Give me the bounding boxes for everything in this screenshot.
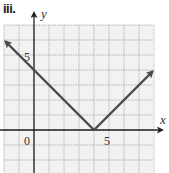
origin-label: 0	[24, 134, 30, 148]
x-tick-5: 5	[104, 134, 110, 148]
y-axis-label: y	[39, 6, 47, 21]
x-axis-label: x	[159, 112, 166, 127]
grid-background	[4, 25, 153, 173]
y-tick-5: 5	[24, 50, 30, 64]
graph: y x 0 5 5	[0, 0, 169, 173]
